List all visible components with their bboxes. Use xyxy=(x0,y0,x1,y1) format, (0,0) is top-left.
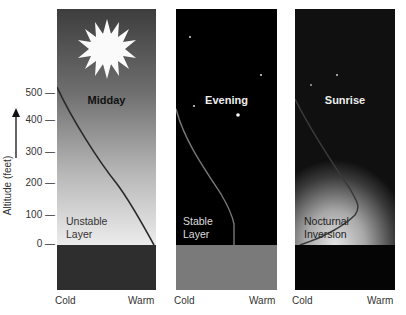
x-label-warm-midday: Warm xyxy=(128,295,154,306)
layer-label-sunrise: Nocturnal Inversion xyxy=(304,215,349,241)
x-label-cold-evening: Cold xyxy=(174,295,195,306)
layer-label-line1: Nocturnal xyxy=(304,215,349,228)
layer-label-evening: Stable Layer xyxy=(183,215,213,241)
x-label-cold-midday: Cold xyxy=(55,295,76,306)
layer-label-line2: Layer xyxy=(183,228,213,241)
x-label-warm-sunrise: Warm xyxy=(367,295,393,306)
stars-icon xyxy=(295,9,395,245)
panel-title-sunrise: Sunrise xyxy=(295,94,395,106)
star-icon xyxy=(236,113,240,117)
panel-midday: Midday Unstable Layer xyxy=(57,9,156,245)
panel-evening: Evening Stable Layer xyxy=(176,9,277,245)
sun-icon xyxy=(57,9,156,245)
layer-label-line1: Stable xyxy=(183,215,213,228)
layer-label-line2: Layer xyxy=(66,228,107,241)
y-tick-400: 400 — xyxy=(0,114,55,125)
x-label-cold-sunrise: Cold xyxy=(292,295,313,306)
panel-title-evening: Evening xyxy=(176,94,277,106)
star-icon xyxy=(189,36,191,38)
ground-sunrise xyxy=(295,245,395,290)
star-icon xyxy=(310,84,312,86)
up-arrow-icon xyxy=(12,108,20,158)
ground-midday xyxy=(57,245,156,290)
panel-sunrise: Sunrise Nocturnal Inversion xyxy=(295,9,395,245)
x-label-warm-evening: Warm xyxy=(249,295,275,306)
star-icon xyxy=(336,74,338,76)
ground-evening xyxy=(176,245,277,290)
y-axis-label: Altitude (feet) xyxy=(2,156,13,215)
layer-label-line1: Unstable xyxy=(66,215,107,228)
y-tick-0: 0 — xyxy=(0,238,55,249)
panel-title-midday: Midday xyxy=(57,94,156,106)
crescent-moon-icon xyxy=(176,9,277,245)
layer-label-line2: Inversion xyxy=(304,228,349,241)
star-icon xyxy=(260,74,262,76)
layer-label-midday: Unstable Layer xyxy=(66,215,107,241)
y-tick-500: 500 — xyxy=(0,87,55,98)
